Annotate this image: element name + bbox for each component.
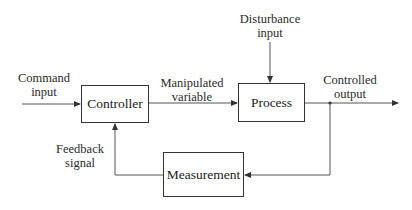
disturbance-input-label: Disturbance input	[230, 12, 310, 40]
process-label: Process	[251, 95, 292, 111]
controlled-output-label: Controlled output	[312, 73, 388, 101]
feedback-signal-arrow	[115, 124, 163, 175]
controller-label: Controller	[87, 96, 143, 112]
command-input-label: Command input	[14, 71, 74, 99]
measurement-label: Measurement	[167, 167, 240, 183]
feedback-signal-label: Feedback signal	[50, 142, 110, 170]
controller-block: Controller	[81, 85, 149, 123]
process-block: Process	[238, 83, 305, 122]
measurement-block: Measurement	[163, 152, 244, 197]
manipulated-variable-label: Manipulated variable	[152, 76, 232, 104]
